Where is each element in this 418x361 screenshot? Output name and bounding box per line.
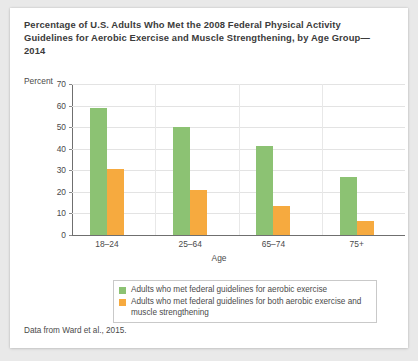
y-tick-mark <box>69 84 72 85</box>
plot-area <box>72 84 405 235</box>
bar <box>340 177 357 235</box>
x-tick-label: 75+ <box>327 239 387 249</box>
y-tick-mark <box>69 106 72 107</box>
y-tick-mark <box>69 149 72 150</box>
y-tick-label: 40 <box>32 144 66 154</box>
category-separator <box>155 84 156 235</box>
y-tick-mark <box>69 127 72 128</box>
y-tick-label: 50 <box>32 122 66 132</box>
legend-swatch-green-icon <box>119 287 126 294</box>
y-tick-mark <box>69 235 72 236</box>
category-separator <box>322 84 323 235</box>
x-tick-label: 18–24 <box>77 239 137 249</box>
y-tick-label: 20 <box>32 187 66 197</box>
bar <box>173 127 190 235</box>
bar <box>107 169 124 235</box>
category-separator <box>239 84 240 235</box>
x-axis-title: Age <box>10 253 418 263</box>
x-tick-label: 65–74 <box>243 239 303 249</box>
chart-title: Percentage of U.S. Adults Who Met the 20… <box>24 18 384 58</box>
legend-swatch-orange-icon <box>119 299 126 306</box>
legend-item-both: Adults who met federal guidelines for bo… <box>119 297 371 318</box>
legend-item-aerobic: Adults who met federal guidelines for ae… <box>119 285 371 295</box>
bar <box>256 146 273 235</box>
chart-legend: Adults who met federal guidelines for ae… <box>113 280 377 323</box>
legend-label-both: Adults who met federal guidelines for bo… <box>131 297 371 318</box>
chart-card: Percentage of U.S. Adults Who Met the 20… <box>10 8 408 348</box>
legend-label-aerobic: Adults who met federal guidelines for ae… <box>131 285 327 295</box>
y-tick-mark <box>69 170 72 171</box>
y-tick-label: 10 <box>32 208 66 218</box>
y-tick-label: 70 <box>32 79 66 89</box>
y-tick-label: 60 <box>32 101 66 111</box>
chart-page: Percentage of U.S. Adults Who Met the 20… <box>0 0 418 361</box>
bar <box>190 190 207 235</box>
y-tick-label: 30 <box>32 165 66 175</box>
source-note: Data from Ward et al., 2015. <box>24 326 127 335</box>
bar <box>273 206 290 235</box>
bar <box>90 108 107 235</box>
x-axis-line <box>72 235 405 236</box>
bar <box>357 221 374 235</box>
y-tick-mark <box>69 213 72 214</box>
y-tick-label: 0 <box>32 230 66 240</box>
y-tick-mark <box>69 192 72 193</box>
x-tick-label: 25–64 <box>160 239 220 249</box>
